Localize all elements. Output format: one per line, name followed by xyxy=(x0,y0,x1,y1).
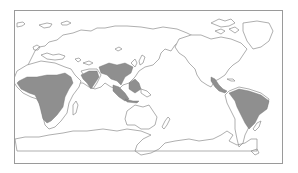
map-canvas xyxy=(15,11,283,164)
shaded-india xyxy=(81,71,99,89)
north-america xyxy=(175,19,273,93)
oceania xyxy=(125,105,170,129)
shaded-central-america xyxy=(211,77,227,93)
africa xyxy=(15,61,81,129)
shaded-southeast-asia xyxy=(99,63,133,85)
shaded-maritime-asia xyxy=(113,79,141,103)
world-map xyxy=(14,10,283,164)
south-america xyxy=(225,87,269,147)
south-asia xyxy=(81,63,151,103)
